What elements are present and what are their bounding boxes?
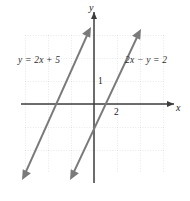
graph-canvas: [0, 0, 190, 201]
equation-label-line-1: y = 2x + 5: [18, 55, 60, 65]
x-axis-tick-label-2: 2: [114, 107, 119, 117]
graph-figure: y = 2x + 5 2x − y = 2 y x 1 2: [0, 0, 190, 201]
equation-label-line-2: 2x − y = 2: [125, 55, 167, 65]
y-axis-label: y: [89, 2, 93, 13]
y-axis-tick-label-1: 1: [98, 76, 103, 86]
x-axis-label: x: [176, 102, 180, 113]
